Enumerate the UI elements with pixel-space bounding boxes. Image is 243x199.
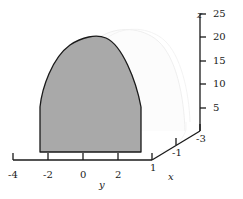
z-axis [200, 14, 206, 131]
z-tick-label-20: 20 [213, 32, 226, 42]
figure-3d-parabolic-region: 25 20 15 10 5 z 1 -1 -3 x -4 -2 0 2 y [0, 0, 243, 199]
x-tick-label-neg3: -3 [196, 134, 206, 144]
z-tick-label-10: 10 [213, 79, 226, 89]
z-tick-label-15: 15 [213, 56, 226, 66]
y-tick-label-neg2: -2 [43, 170, 53, 180]
z-tick-label-5: 5 [213, 103, 219, 113]
y-tick-label-0: 0 [80, 170, 86, 180]
y-tick-label-neg4: -4 [8, 170, 18, 180]
x-axis-label: x [168, 172, 174, 182]
y-tick-label-2: 2 [115, 170, 121, 180]
z-axis-label: z [197, 10, 202, 20]
y-axis [13, 153, 152, 160]
z-tick-label-25: 25 [213, 9, 226, 19]
plot-canvas [0, 0, 243, 199]
y-axis-label: y [99, 180, 105, 190]
x-tick-label-neg1: -1 [172, 148, 182, 158]
x-tick-label-1: 1 [150, 163, 156, 173]
